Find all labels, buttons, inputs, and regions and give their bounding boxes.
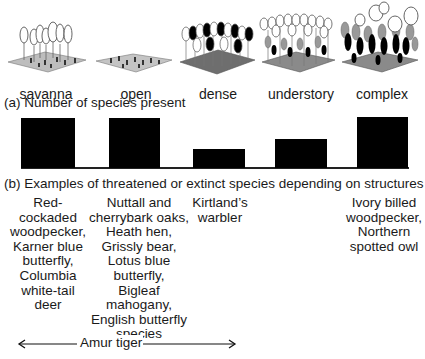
open-stand-icon	[96, 54, 172, 72]
examples-savanna: Red- cockaded woodpecker, Karner blue bu…	[6, 196, 90, 313]
bar-dense	[193, 149, 245, 168]
panel-b-title: (b) Examples of threatened or extinct sp…	[4, 176, 423, 191]
bar-open	[109, 118, 160, 168]
stand-label-dense: dense	[178, 86, 258, 102]
stand-label-understory: understory	[261, 86, 341, 102]
panel-a-title: (a) Number of species present	[4, 95, 186, 110]
bar-complex	[357, 117, 408, 168]
examples-complex: Ivory billed woodpecker, Northern spotte…	[338, 196, 425, 254]
stand-illustrations	[0, 0, 425, 82]
dense-stand-icon	[180, 22, 255, 74]
savanna-stand-icon	[8, 22, 86, 72]
complex-stand-icon	[341, 2, 418, 72]
examples-open: Nuttall and cherrybark oaks, Heath hen, …	[84, 196, 194, 342]
bar-understory	[275, 139, 327, 168]
amur-tiger-range: Amur tiger	[17, 336, 237, 352]
amur-tiger-label: Amur tiger	[79, 335, 143, 350]
bar-savanna	[21, 118, 75, 168]
examples-dense: Kirtland’s warbler	[180, 196, 260, 225]
stand-label-complex: complex	[342, 86, 422, 102]
understory-stand-icon	[260, 14, 335, 72]
